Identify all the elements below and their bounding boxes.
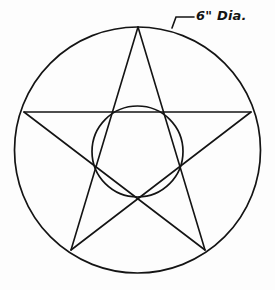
star-chord-right-to-bottom-left (71, 112, 251, 250)
star-chord-bottom-right-to-left (24, 112, 205, 250)
pentagram-diagram: 6" Dia. (0, 0, 275, 290)
drawing-canvas: 6" Dia. (0, 0, 275, 290)
star-chord-bottom-left-to-top (71, 27, 138, 250)
dimension-leader-line (172, 17, 194, 28)
outer-circle (15, 27, 261, 273)
diameter-dimension-label: 6" Dia. (196, 8, 247, 23)
inner-circle (92, 106, 183, 197)
star-chord-top-to-bottom-right (138, 27, 205, 250)
